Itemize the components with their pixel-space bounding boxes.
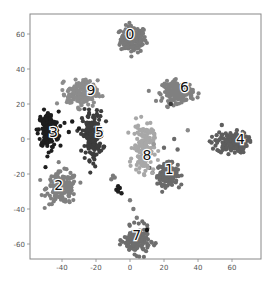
cluster-label-9: 9 [86, 82, 95, 98]
cluster-9-points [55, 78, 105, 112]
x-tick-label: 0 [128, 264, 132, 272]
y-tick-label: -40 [14, 206, 25, 214]
outlier-point [220, 123, 224, 127]
y-tick-label: 20 [16, 101, 25, 109]
outlier-point [186, 128, 190, 132]
cluster-label-2: 2 [54, 177, 63, 193]
outlier-point [172, 137, 176, 141]
y-tick-label: -20 [14, 171, 25, 179]
x-axis: -40-200204060 [56, 259, 236, 272]
x-tick-label: -40 [56, 264, 67, 272]
cluster-label-5: 5 [95, 124, 104, 140]
cluster-label-7: 7 [132, 227, 141, 243]
outlier-point [119, 191, 123, 195]
outlier-point [67, 130, 71, 134]
y-tick-label: 0 [21, 136, 25, 144]
outlier-point [145, 228, 149, 232]
outlier-point [209, 140, 213, 144]
cluster-label-6: 6 [180, 79, 189, 95]
x-tick-label: -20 [90, 264, 101, 272]
y-tick-label: 40 [16, 66, 25, 74]
outlier-point [169, 102, 173, 106]
outlier-point [175, 147, 179, 151]
scatter-points [35, 21, 253, 259]
cluster-label-4: 4 [236, 131, 245, 147]
outlier-point [70, 119, 74, 123]
tsne-scatter-chart: -40-200204060 6040200-20-40-60 012345678… [0, 0, 275, 285]
outlier-point [152, 142, 156, 146]
x-tick-label: 40 [194, 264, 203, 272]
cluster-label-3: 3 [49, 124, 58, 140]
cluster-4-points [208, 128, 253, 156]
cluster-label-8: 8 [143, 147, 152, 163]
outlier-point [128, 198, 132, 202]
outlier-point [116, 184, 120, 188]
outlier-point [162, 146, 166, 150]
cluster-label-1: 1 [165, 161, 174, 177]
x-tick-label: 60 [228, 264, 237, 272]
outlier-point [131, 207, 135, 211]
x-tick-label: 20 [160, 264, 169, 272]
y-axis: 6040200-20-40-60 [14, 31, 30, 249]
outlier-point [135, 216, 139, 220]
cluster-5-points [75, 107, 108, 175]
y-tick-label: -60 [14, 241, 25, 249]
cluster-label-0: 0 [126, 26, 135, 42]
cluster-6-points [147, 77, 201, 109]
y-tick-label: 60 [16, 31, 25, 39]
outlier-point [109, 177, 113, 181]
outlier-point [77, 126, 81, 130]
